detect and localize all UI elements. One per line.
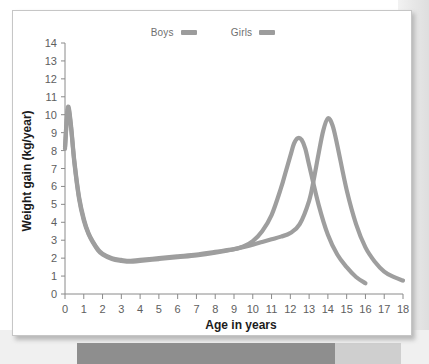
y-tick-label: 0: [51, 288, 57, 300]
y-tick-label: 12: [45, 73, 57, 85]
y-axis-title: Weight gain (kg/year): [20, 110, 34, 231]
page-gray-band: [77, 343, 335, 364]
x-tick-label: 5: [156, 303, 162, 315]
y-tick-label: 7: [51, 163, 57, 175]
y-tick-label: 13: [45, 55, 57, 67]
x-tick-label: 10: [247, 303, 259, 315]
x-tick-label: 3: [118, 303, 124, 315]
y-tick-label: 6: [51, 180, 57, 192]
y-tick-label: 3: [51, 234, 57, 246]
x-tick-label: 15: [341, 303, 353, 315]
x-tick-label: 11: [266, 303, 277, 315]
x-tick-label: 4: [137, 303, 143, 315]
x-tick-label: 12: [284, 303, 296, 315]
y-tick-label: 11: [46, 91, 57, 103]
x-tick-label: 18: [397, 303, 409, 315]
weight-gain-velocity-chart: Boys Girls 01234567891011121314 01234567…: [13, 11, 413, 337]
x-tick-label: 6: [175, 303, 181, 315]
y-tick-label: 1: [51, 270, 57, 282]
x-tick-label: 2: [99, 303, 105, 315]
x-tick-label: 0: [62, 303, 68, 315]
scanned-page-background: Boys Girls 01234567891011121314 01234567…: [0, 0, 429, 364]
x-tick-label: 16: [359, 303, 371, 315]
series-lines: [65, 107, 403, 284]
plot-svg: 01234567891011121314 0123456789101112131…: [13, 11, 413, 337]
y-axis: 01234567891011121314: [45, 37, 65, 300]
x-tick-label: 14: [322, 303, 334, 315]
y-tick-label: 14: [45, 37, 57, 49]
x-tick-label: 17: [378, 303, 390, 315]
y-tick-label: 10: [45, 109, 57, 121]
series-line-boys: [65, 107, 403, 281]
y-tick-label: 9: [51, 127, 57, 139]
x-axis-title: Age in years: [205, 318, 277, 332]
x-axis: 0123456789101112131415161718: [62, 294, 409, 315]
x-tick-label: 1: [81, 303, 87, 315]
y-tick-label: 4: [51, 216, 57, 228]
y-tick-label: 8: [51, 145, 57, 157]
x-tick-label: 9: [231, 303, 237, 315]
x-tick-label: 8: [212, 303, 218, 315]
y-tick-label: 2: [51, 252, 57, 264]
x-tick-label: 7: [193, 303, 199, 315]
figure-panel: Boys Girls 01234567891011121314 01234567…: [12, 10, 412, 336]
x-tick-label: 13: [303, 303, 315, 315]
page-gray-band-light: [335, 343, 401, 364]
y-tick-label: 5: [51, 198, 57, 210]
